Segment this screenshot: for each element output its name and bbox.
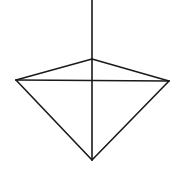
kite-diagram: [0, 0, 179, 170]
left-lower-edge: [16, 80, 92, 160]
horizontal-crossbar: [16, 80, 169, 81]
right-lower-edge: [92, 81, 169, 160]
apex-right-edge: [92, 59, 169, 81]
apex-left-edge: [16, 59, 92, 80]
